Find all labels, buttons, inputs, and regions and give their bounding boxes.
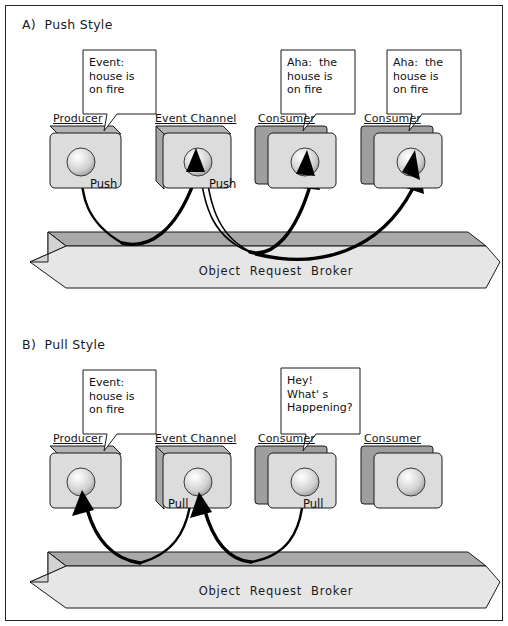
verb-label-event-channel-push: Push <box>209 177 236 191</box>
orb-label-pull: Object Request Broker <box>66 584 486 598</box>
node-label-producer-push: Producer <box>53 112 103 125</box>
verb-label-producer-push: Push <box>90 177 117 191</box>
sphere-producer-push <box>67 148 95 176</box>
verb-label-consumer-1-pull: Pull <box>303 497 323 511</box>
orb-bar-pull <box>30 552 500 608</box>
speech-bubble-text-consumer-1-push: Aha: the house is on fire <box>287 56 337 97</box>
node-label-consumer-1-push: Consumer <box>258 112 315 125</box>
orb-bar-push <box>30 232 500 288</box>
sphere-consumer-1-pull <box>291 468 319 496</box>
verb-label-event-channel-pull: Pull <box>168 497 188 511</box>
speech-bubble-text-producer-push: Event: house is on fire <box>89 56 134 97</box>
node-label-consumer-2-push: Consumer <box>364 112 421 125</box>
sphere-consumer-2-pull <box>397 468 425 496</box>
node-label-event-channel-pull: Event Channel <box>155 432 236 445</box>
node-label-consumer-1-pull: Consumer <box>258 432 315 445</box>
figure-canvas: A) Push Style <box>0 0 508 626</box>
node-label-producer-pull: Producer <box>53 432 103 445</box>
section-title-pull: B) Pull Style <box>22 337 105 352</box>
node-label-event-channel-push: Event Channel <box>155 112 236 125</box>
node-label-consumer-2-pull: Consumer <box>364 432 421 445</box>
speech-bubble-text-consumer-2-push: Aha: the house is on fire <box>393 56 443 97</box>
sphere-producer-pull <box>67 468 95 496</box>
speech-bubble-text-producer-pull: Event: house is on fire <box>89 376 134 417</box>
orb-label-push: Object Request Broker <box>66 264 486 278</box>
sphere-event-channel-pull <box>184 468 212 496</box>
speech-bubble-text-consumer-1-pull: Hey! What' s Happening? <box>287 374 353 415</box>
